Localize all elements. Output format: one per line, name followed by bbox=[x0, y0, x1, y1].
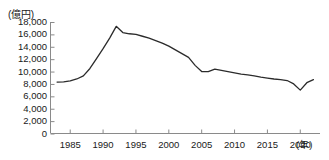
chart-container: (億円) 18,00016,00014,00012,00010,0008,000… bbox=[0, 0, 329, 160]
x-axis-tick-label: 2000 bbox=[158, 139, 179, 150]
x-axis-unit-label: (年) bbox=[296, 139, 312, 150]
x-axis-tick-label: 1990 bbox=[93, 139, 114, 150]
x-axis-ticks bbox=[70, 130, 300, 134]
plot-area bbox=[0, 0, 329, 160]
x-axis-tick-label: 1995 bbox=[125, 139, 146, 150]
data-series-line bbox=[57, 26, 313, 90]
x-axis-tick-label: 2015 bbox=[257, 139, 278, 150]
x-axis-tick-label: 2005 bbox=[191, 139, 212, 150]
y-axis-ticks bbox=[51, 23, 55, 135]
x-axis-tick-label: 1985 bbox=[60, 139, 81, 150]
axis-lines bbox=[51, 22, 321, 134]
x-axis-tick-label: 2010 bbox=[224, 139, 245, 150]
